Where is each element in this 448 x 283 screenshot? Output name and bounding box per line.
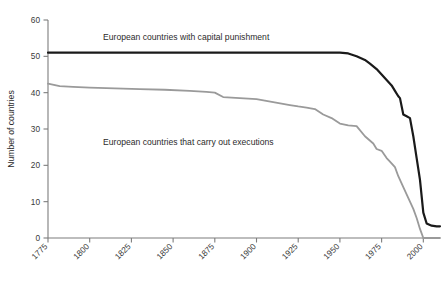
x-tick-label: 1825 (113, 241, 133, 261)
x-tick-label: 1950 (321, 241, 341, 261)
y-tick-label: 50 (31, 51, 41, 61)
y-tick-label: 0 (35, 233, 40, 243)
y-tick-label: 20 (31, 160, 41, 170)
x-tick-label: 1925 (279, 241, 299, 261)
series-annotation-label: European countries with capital punishme… (103, 32, 270, 42)
x-axis-group: 1775180018251850187519001925195019752000 (29, 238, 440, 261)
capital-punishment-chart-figure: 0102030405060 17751800182518501875190019… (0, 0, 448, 283)
x-tick-label: 2000 (405, 241, 425, 261)
x-axis-ticks: 1775180018251850187519001925195019752000 (29, 238, 425, 261)
series-annotations-group: European countries with capital punishme… (103, 32, 274, 147)
x-tick-label: 1975 (363, 241, 383, 261)
series-line-executions (48, 84, 440, 238)
y-tick-label: 60 (31, 15, 41, 25)
x-tick-label: 1875 (196, 241, 216, 261)
x-tick-label: 1900 (238, 241, 258, 261)
y-axis-group: 0102030405060 (31, 15, 48, 243)
series-annotation-label: European countries that carry out execut… (103, 137, 274, 147)
y-tick-label: 40 (31, 88, 41, 98)
y-tick-label: 30 (31, 124, 41, 134)
y-tick-label: 10 (31, 197, 41, 207)
x-tick-label: 1800 (71, 241, 91, 261)
chart-plot-area: 0102030405060 17751800182518501875190019… (0, 0, 448, 283)
y-axis-ticks: 0102030405060 (31, 15, 48, 243)
y-axis-title: Number of countries (6, 90, 16, 167)
x-tick-label: 1775 (29, 241, 49, 261)
x-tick-label: 1850 (154, 241, 174, 261)
